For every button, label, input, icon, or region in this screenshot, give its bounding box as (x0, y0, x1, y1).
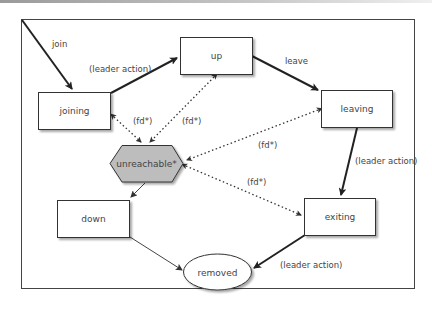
node-exiting-label: exiting (325, 212, 356, 222)
label-leader-action-leaving-exiting: (leader action) (355, 156, 417, 166)
label-join: join (51, 39, 67, 49)
node-joining-label: joining (58, 106, 89, 116)
label-fd-up: (fd*) (182, 116, 201, 126)
label-leader-action-exiting-removed: (leader action) (280, 260, 342, 270)
node-leaving-label: leaving (341, 104, 374, 114)
label-leave: leave (285, 56, 308, 66)
label-fd-leaving: (fd*) (258, 140, 277, 150)
label-fd-joining: (fd*) (133, 116, 152, 126)
node-up-label: up (211, 51, 223, 61)
node-removed-label: removed (198, 268, 238, 278)
state-diagram: joining up leaving unreachable* down exi… (0, 0, 432, 312)
label-fd-exiting: (fd*) (247, 177, 266, 187)
node-down-label: down (81, 214, 105, 224)
label-leader-action-joining-up: (leader action) (89, 64, 151, 74)
node-unreachable-label: unreachable* (116, 159, 177, 169)
